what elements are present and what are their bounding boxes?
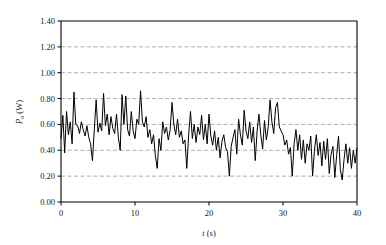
y-tick-label: 0.40 [40, 145, 55, 155]
y-tick-label: 0.20 [40, 171, 55, 181]
x-tick-label: 10 [131, 208, 140, 218]
x-tick-label: 30 [279, 208, 288, 218]
line-chart: 0.000.200.400.600.801.001.201.40 0102030… [0, 0, 386, 245]
x-tick-label: 20 [205, 208, 214, 218]
x-tick-label: 0 [59, 208, 63, 218]
y-tick-label: 1.00 [40, 68, 55, 78]
y-tick-label: 0.80 [40, 94, 55, 104]
y-axis-title: Po (W) [14, 100, 25, 125]
x-tick-label: 40 [353, 208, 362, 218]
y-tick-label: 0.60 [40, 119, 55, 129]
y-tick-label: 1.20 [40, 42, 55, 52]
chart-figure: 0.000.200.400.600.801.001.201.40 0102030… [0, 0, 386, 245]
x-axis-title: t (s) [202, 228, 216, 238]
y-tick-label: 0.00 [40, 197, 55, 207]
y-tick-label: 1.40 [40, 16, 55, 26]
